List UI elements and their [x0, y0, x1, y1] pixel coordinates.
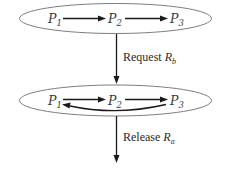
arrowhead-icon — [160, 16, 168, 22]
edge-p1-p2-bottom — [63, 97, 106, 103]
arrow-down-icon — [114, 76, 120, 84]
edge-p2-p3-top — [125, 16, 168, 22]
arrowhead-icon — [98, 16, 106, 22]
svg-text:P2: P2 — [107, 11, 122, 28]
state-top: P1 P2 P3 — [20, 4, 212, 34]
node-subscript: 1 — [56, 18, 61, 28]
node-p1-top: P1 — [47, 11, 62, 28]
edge-p1-p2-top — [63, 16, 106, 22]
transition-release: Release Ra — [114, 116, 175, 163]
node-p1-bottom: P1 — [47, 93, 62, 110]
arrowhead-icon — [98, 97, 106, 103]
arrowhead-icon — [160, 97, 168, 103]
transition-label: Request Rb — [123, 50, 176, 66]
node-p2-bottom: P2 — [107, 93, 122, 110]
arrow-down-icon — [114, 155, 120, 163]
process-wait-for-diagram: P1 P2 P3 Request Rb — [0, 0, 226, 176]
node-subscript: 1 — [56, 100, 61, 110]
transition-request: Request Rb — [114, 34, 177, 84]
svg-text:P1: P1 — [47, 11, 62, 28]
node-subscript: 3 — [178, 18, 183, 28]
node-p2-top: P2 — [107, 11, 122, 28]
node-p3-top: P3 — [169, 11, 184, 28]
node-subscript: 2 — [115, 18, 121, 28]
svg-text:P3: P3 — [169, 11, 184, 28]
state-bottom: P1 P2 P3 — [20, 85, 212, 116]
node-p3-bottom: P3 — [169, 93, 184, 110]
svg-text:P1: P1 — [47, 93, 62, 110]
svg-text:P2: P2 — [107, 93, 122, 110]
svg-text:P3: P3 — [169, 93, 184, 110]
arrowhead-icon — [62, 103, 71, 109]
node-subscript: 2 — [115, 100, 121, 110]
node-subscript: 3 — [178, 100, 183, 110]
edge-p2-p3-bottom — [125, 97, 168, 103]
transition-label: Release Ra — [123, 130, 175, 146]
